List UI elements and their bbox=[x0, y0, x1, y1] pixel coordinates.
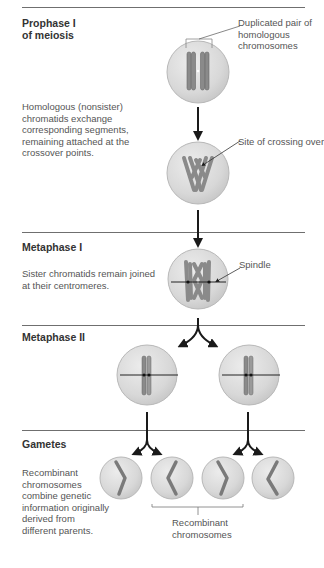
gamete-2 bbox=[151, 457, 193, 499]
cell-metaphase2-left bbox=[117, 345, 178, 405]
cell-crossing-over bbox=[167, 141, 240, 204]
arrow-split-1 bbox=[182, 318, 214, 345]
recombinant-bracket bbox=[152, 504, 243, 515]
gamete-1 bbox=[100, 457, 142, 499]
cell-metaphase2-right bbox=[219, 345, 280, 405]
gamete-3 bbox=[202, 457, 244, 499]
cell-prophase1 bbox=[167, 26, 240, 103]
arrow-split-2 bbox=[136, 412, 158, 453]
arrow-split-3 bbox=[237, 412, 259, 453]
cell-metaphase1 bbox=[168, 249, 240, 309]
gamete-4 bbox=[252, 457, 294, 499]
